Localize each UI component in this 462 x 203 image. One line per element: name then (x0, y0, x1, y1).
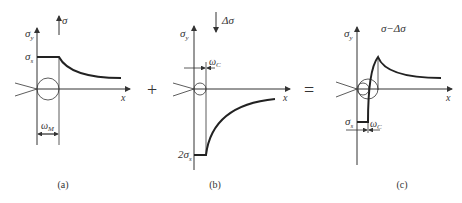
panel-b: Δσ σy 2σs x ωC (b) (173, 12, 290, 191)
x-axis-label: x (282, 92, 288, 103)
x-axis-label: x (445, 92, 451, 103)
width-label: ωC (209, 56, 221, 69)
caption-c: (c) (396, 179, 407, 191)
equals-operator: = (304, 80, 314, 100)
width-label: ωC (370, 118, 382, 131)
applied-stress-label: Δσ (221, 14, 234, 26)
level-label: σs (25, 50, 33, 65)
panel-c: σ−Δσ σy σs x ωC (c) (336, 22, 452, 191)
level-label: σs (345, 115, 353, 130)
plus-operator: + (147, 80, 157, 100)
y-axis-label: σy (344, 27, 353, 42)
y-axis-label: σy (25, 27, 34, 42)
applied-stress-label: σ (62, 14, 68, 26)
y-axis-label: σy (180, 27, 189, 42)
width-label: ωM (41, 120, 55, 133)
x-axis-label: x (120, 92, 126, 103)
caption-b: (b) (209, 179, 221, 191)
stress-superposition-diagram: σ σy σs x ωM (a) + Δσ σy 2σs x ωC (b) = (0, 0, 462, 203)
level-label: 2σs (178, 148, 192, 163)
applied-stress-label: σ−Δσ (381, 22, 406, 34)
panel-a: σ σy σs x ωM (a) (15, 14, 130, 191)
caption-a: (a) (57, 179, 68, 191)
